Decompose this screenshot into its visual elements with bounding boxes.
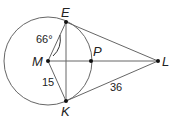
length-mk: 15 <box>42 76 54 88</box>
length-kl: 36 <box>110 81 122 93</box>
point-l <box>156 59 160 63</box>
label-p: P <box>93 44 102 59</box>
segment-el <box>66 22 158 61</box>
label-m: M <box>32 54 43 69</box>
point-p <box>89 59 93 63</box>
geometry-diagram: E M K P L 66° 15 36 <box>0 0 179 121</box>
label-k: K <box>61 104 71 119</box>
label-e: E <box>61 5 70 20</box>
angle-arc-icon <box>53 35 60 56</box>
label-l: L <box>162 54 169 69</box>
point-m <box>46 59 50 63</box>
point-e <box>64 20 68 24</box>
point-k <box>64 99 68 103</box>
angle-measure: 66° <box>36 33 53 45</box>
